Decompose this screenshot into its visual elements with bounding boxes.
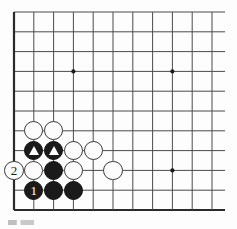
triangle-marker-icon xyxy=(49,146,59,155)
grid-lines xyxy=(14,12,225,210)
stone-white xyxy=(103,161,122,180)
stone-black xyxy=(44,161,63,180)
go-diagram-figure: 21 xyxy=(0,0,237,229)
stone-white xyxy=(64,161,83,180)
move-number-label: 1 xyxy=(31,184,38,197)
stone-black xyxy=(64,181,83,200)
stone-black xyxy=(44,181,63,200)
star-point xyxy=(170,168,174,172)
move-number-label: 2 xyxy=(11,164,18,177)
stone-white xyxy=(64,141,83,160)
star-point xyxy=(170,69,174,73)
stone-black-1: 1 xyxy=(24,181,43,200)
caption-artifact xyxy=(8,220,34,225)
stone-white-2: 2 xyxy=(4,161,23,180)
stone-white xyxy=(84,141,103,160)
triangle-marker-icon xyxy=(29,146,39,155)
star-point xyxy=(71,69,75,73)
